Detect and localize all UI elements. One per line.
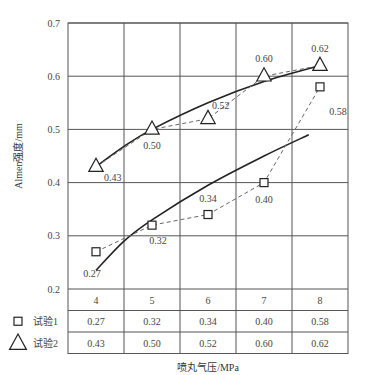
triangle-marker-icon [201, 110, 215, 123]
y-tick-label: 0.4 [48, 177, 61, 188]
series-2: 0.430.500.520.600.62 [89, 43, 329, 183]
data-label: 0.34 [199, 193, 217, 204]
chart: 0.70.60.50.40.30.2 Almen强度/mm 0.270.320.… [0, 0, 366, 375]
data-label: 0.43 [104, 172, 122, 183]
square-marker-icon [260, 179, 268, 187]
data-label: 0.62 [311, 43, 329, 54]
data-label: 0.58 [329, 106, 347, 117]
table-cell: 0.50 [143, 338, 161, 349]
y-tick-label: 0.5 [48, 124, 61, 135]
y-tick-label: 0.3 [48, 230, 61, 241]
table-header-cell: 7 [262, 295, 267, 306]
table-cell: 0.34 [199, 316, 217, 327]
triangle-marker-icon [10, 334, 27, 349]
y-tick-label: 0.6 [48, 71, 61, 82]
square-marker-icon [14, 317, 22, 325]
table-header-cell: 6 [206, 295, 211, 306]
table-cell: 0.62 [311, 338, 329, 349]
table-cell: 0.32 [143, 316, 161, 327]
data-label: 0.60 [255, 53, 273, 64]
triangle-marker-icon [313, 57, 327, 70]
data-label: 0.27 [83, 268, 101, 279]
data-table: 45678试验10.270.320.340.400.58试验20.430.500… [10, 295, 329, 350]
table-header-cell: 8 [318, 295, 323, 306]
data-label: 0.32 [149, 235, 167, 246]
square-marker-icon [148, 221, 156, 229]
square-marker-icon [316, 83, 324, 91]
table-cell: 0.27 [87, 316, 105, 327]
table-header-cell: 4 [94, 295, 99, 306]
y-tick-label: 0.2 [48, 284, 61, 295]
table-cell: 0.60 [255, 338, 273, 349]
square-marker-icon [204, 211, 212, 219]
triangle-marker-icon [257, 68, 271, 81]
data-label: 0.52 [212, 100, 230, 111]
trend-lines [96, 66, 320, 271]
table-cell: 0.43 [87, 338, 105, 349]
data-label: 0.40 [255, 194, 273, 205]
y-axis-ticks: 0.70.60.50.40.30.2 [48, 18, 61, 295]
table-cell: 0.58 [311, 316, 329, 327]
table-cell: 0.52 [199, 338, 217, 349]
triangle-marker-icon [89, 158, 103, 171]
data-label: 0.50 [143, 140, 161, 151]
table-header-cell: 5 [150, 295, 155, 306]
table-cell: 0.40 [255, 316, 273, 327]
table-legend-label: 试验1 [33, 315, 58, 327]
x-axis-label: 喷丸气压/MPa [177, 361, 239, 373]
y-axis-label: Almen强度/mm [12, 123, 24, 189]
y-tick-label: 0.7 [48, 18, 61, 29]
square-marker-icon [92, 248, 100, 256]
table-legend-label: 试验2 [33, 337, 58, 349]
